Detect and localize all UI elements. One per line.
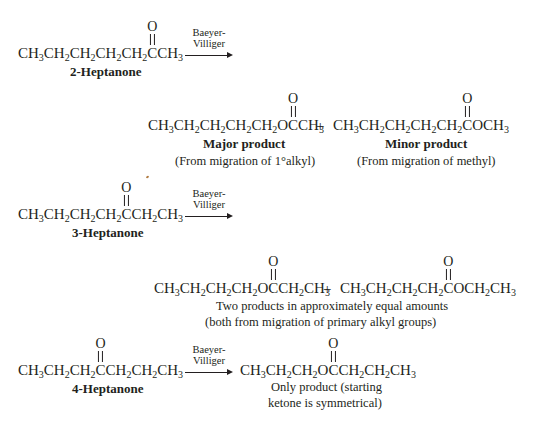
carbonyl-carbon: CO xyxy=(328,363,338,378)
only-product-formula: CH3CH2CH2OCOCH2CH2CH3 xyxy=(240,363,416,378)
arrow-line xyxy=(185,372,231,373)
equal-amounts-caption-line1: Two products in approximately equal amou… xyxy=(216,298,448,314)
carbonyl-carbon: CO xyxy=(96,363,106,378)
product-a-formula: CH3CH2CH2CH2OCOCH2CH3 xyxy=(154,281,330,296)
carbonyl-carbon: CO xyxy=(147,46,157,61)
only-product-caption-line1: Only product (starting xyxy=(271,379,382,395)
arrow-head-icon xyxy=(227,213,233,219)
minor-product-formula: CH3CH2CH2CH2CH2COOCH3 xyxy=(333,118,509,133)
carbonyl-double-bond-oxygen: O xyxy=(147,20,157,46)
carbonyl-double-bond-oxygen: O xyxy=(288,92,298,118)
carbonyl-double-bond-oxygen: O xyxy=(328,337,338,363)
minor-product-caption: (From migration of methyl) xyxy=(357,153,496,169)
equal-amounts-caption-line2: (both from migration of primary alkyl gr… xyxy=(205,314,436,330)
arrow-line xyxy=(185,216,231,217)
reactant-name-4-heptanone: 4-Heptanone xyxy=(72,381,144,397)
product-b-formula: CH3CH2CH2CH2COOCH2CH3 xyxy=(340,281,516,296)
carbonyl-double-bond-oxygen: O xyxy=(443,255,453,281)
reactant-name-2-heptanone: 2-Heptanone xyxy=(70,64,142,80)
major-product-label: Major product xyxy=(203,136,285,152)
reactant-name-3-heptanone: 3-Heptanone xyxy=(72,225,144,241)
reagent-label: Baeyer-Villiger xyxy=(185,27,233,49)
minor-product-label: Minor product xyxy=(385,136,467,152)
carbonyl-double-bond-oxygen: O xyxy=(268,255,278,281)
carbonyl-carbon: CO xyxy=(268,281,278,296)
carbonyl-double-bond-oxygen: O xyxy=(95,337,105,363)
carbonyl-carbon: CO xyxy=(121,207,131,222)
major-product-caption: (From migration of 1°alkyl) xyxy=(175,153,315,169)
carbonyl-double-bond-oxygen: O xyxy=(462,92,472,118)
carbonyl-carbon: CO xyxy=(288,118,298,133)
reagent-label: Baeyer-Villiger xyxy=(185,188,233,210)
reactant-4-heptanone-formula: CH3CH2CH2COCH2CH2CH3 xyxy=(18,363,183,378)
carbonyl-double-bond-oxygen: O xyxy=(121,181,131,207)
scan-artifact xyxy=(146,175,150,178)
reactant-2-heptanone-formula: CH3CH2CH2CH2CH2COCH3 xyxy=(18,46,183,61)
arrow-head-icon xyxy=(227,369,233,375)
carbonyl-carbon: CO xyxy=(462,118,472,133)
plus-sign: + xyxy=(316,118,324,135)
arrow-line xyxy=(185,55,231,56)
reactant-3-heptanone-formula: CH3CH2CH2CH2COCH2CH3 xyxy=(18,207,183,222)
reagent-label: Baeyer-Villiger xyxy=(185,344,233,366)
major-product-formula: CH3CH2CH2CH2CH2OCOCH3 xyxy=(148,118,324,133)
plus-sign: + xyxy=(323,281,331,298)
carbonyl-carbon: CO xyxy=(443,281,453,296)
arrow-head-icon xyxy=(227,52,233,58)
only-product-caption-line2: ketone is symmetrical) xyxy=(268,395,382,411)
